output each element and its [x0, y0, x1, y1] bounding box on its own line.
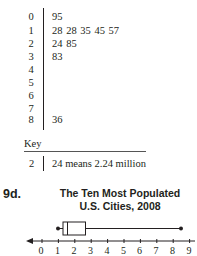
tick-label-6: 6	[137, 245, 142, 256]
tick-label-0: 0	[39, 245, 44, 256]
tick-label-3: 3	[88, 245, 93, 256]
tick-label-4: 4	[105, 245, 110, 256]
tick-label-2: 2	[72, 245, 77, 256]
max-point	[179, 227, 183, 231]
iqr-box	[63, 222, 86, 235]
box-plot	[0, 0, 197, 256]
min-point	[56, 227, 60, 231]
tick-label-8: 8	[170, 245, 175, 256]
tick-label-5: 5	[121, 245, 126, 256]
tick-label-7: 7	[154, 245, 159, 256]
axis-arrow-left-icon	[26, 238, 33, 244]
tick-label-9: 9	[187, 245, 192, 256]
tick-label-1: 1	[55, 245, 60, 256]
